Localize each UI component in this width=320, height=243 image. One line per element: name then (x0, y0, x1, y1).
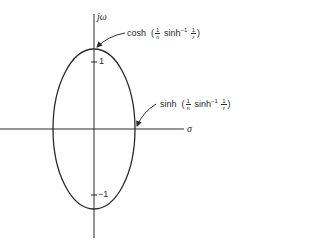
annotation-right: sinh (1n sinh−1 1ε) (160, 98, 231, 111)
fraction-1-over-n: 1n (186, 98, 191, 111)
tick-label-upper: 1 (99, 57, 104, 66)
horizontal-axis-label: σ (187, 124, 192, 134)
fraction-1-over-epsilon: 1ε (221, 98, 226, 111)
arrow-right (137, 104, 156, 126)
arrow-top (97, 33, 125, 47)
tick-label-lower: −1 (98, 190, 108, 199)
annotation-top: cosh (1n sinh−1 1ε) (127, 27, 200, 40)
fraction-1-over-epsilon: 1ε (191, 27, 196, 40)
vertical-axis-label: jω (97, 12, 107, 22)
fraction-1-over-n: 1n (155, 27, 160, 40)
